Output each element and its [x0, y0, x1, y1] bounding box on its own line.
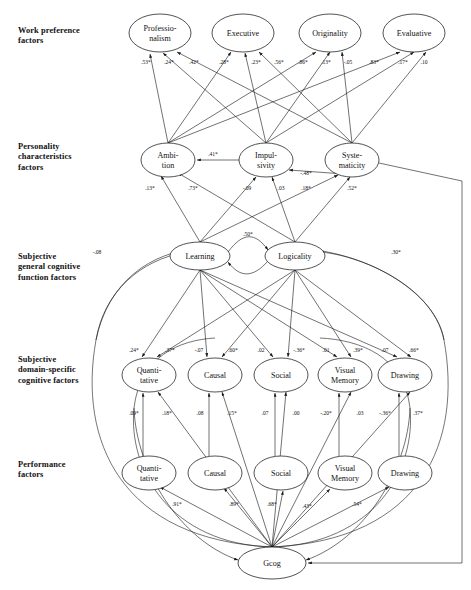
coefficient-lrn-vismem: .01 — [323, 347, 330, 353]
coefficient-gcog-drawingperf: .54* — [352, 501, 362, 507]
coefficient-v-vismem: -.20* — [320, 410, 332, 416]
node-label-impulsivity: Impul- — [255, 151, 277, 160]
coefficient-amb-prof: .53* — [141, 59, 151, 65]
coefficient-gcog-socialperf: .68* — [267, 501, 277, 507]
row-label-performance: Performancefactors — [18, 460, 66, 481]
coefficient-log-sys: .52* — [347, 185, 357, 191]
node-originality[interactable]: Originality — [299, 14, 361, 52]
coefficient-imp-orig: .13* — [321, 59, 331, 65]
coefficient-lrn-imp: -.09 — [243, 185, 252, 191]
node-label-drawing-subj: Drawing — [391, 371, 419, 380]
coefficient-lrn-drawing: .07 — [382, 347, 389, 353]
node-learning[interactable]: Learning — [170, 242, 230, 270]
coefficient-amb-eval: .83* — [369, 59, 379, 65]
coefficient-g-vismem: .03 — [357, 410, 364, 416]
node-label-visualmemory-perf: Memory — [331, 474, 360, 483]
coefficient-gcog-lrn: -.08 — [93, 249, 102, 255]
node-label-learning: Learning — [185, 252, 214, 261]
node-label-evaluative: Evaluative — [397, 29, 432, 38]
path-diagram-canvas: Professio-nalismExecutiveOriginalityEval… — [0, 0, 471, 590]
node-logicality[interactable]: Logicality — [265, 242, 325, 270]
coefficient-log-causal: .60* — [228, 347, 238, 353]
coefficient-log-social: -.36* — [293, 347, 305, 353]
coefficient-imp-amb: .41* — [208, 151, 218, 157]
node-label-causal-perf: Causal — [204, 469, 227, 478]
coefficient-g-quant: .18* — [162, 410, 172, 416]
node-causal-perf[interactable]: Causal — [188, 456, 242, 490]
row-label-line: characteristics — [18, 152, 72, 162]
node-drawing-perf[interactable]: Drawing — [378, 456, 432, 490]
row-label-line: factors — [18, 163, 72, 173]
node-quantitative-perf[interactable]: Quanti-tative — [122, 456, 176, 490]
node-label-systematicity: maticity — [339, 161, 366, 170]
node-label-impulsivity: sivity — [257, 161, 276, 170]
node-label-gcog: Gcog — [263, 559, 281, 568]
node-visualmemory-perf[interactable]: VisualMemory — [318, 456, 372, 490]
coefficient-g-drawing: .37* — [413, 410, 423, 416]
node-label-executive: Executive — [227, 29, 260, 38]
node-label-visualmemory-subj: Visual — [335, 366, 356, 375]
node-label-originality: Originality — [312, 29, 348, 38]
row-label-line: domain-specific — [18, 365, 79, 375]
coefficient-lrn-amb: .13* — [145, 185, 155, 191]
coefficient-gcog-causalperf: .89* — [229, 501, 239, 507]
node-label-professionalism: nalism — [149, 34, 171, 43]
row-label-domain-specific: Subjectivedomain-specificcognitive facto… — [18, 355, 79, 386]
coefficient-gcog-log: .30* — [391, 249, 401, 255]
node-label-ambition: Ambi- — [157, 151, 178, 160]
coefficient-log-amb: .73* — [188, 185, 198, 191]
node-causal-subj[interactable]: Causal — [188, 358, 242, 392]
row-label-line: Subjective — [18, 252, 80, 262]
node-label-quantitative-perf: tative — [140, 474, 158, 483]
coefficient-sys-prof: .42* — [189, 59, 199, 65]
node-label-quantitative-subj: Quanti- — [137, 366, 162, 375]
coefficient-lrn-social: .02 — [258, 347, 265, 353]
node-social-perf[interactable]: Social — [254, 456, 308, 490]
coefficient-lrn-causal: -.07 — [195, 347, 204, 353]
node-drawing-subj[interactable]: Drawing — [378, 358, 432, 392]
node-label-logicality: Logicality — [278, 252, 312, 261]
node-gcog[interactable]: Gcog — [238, 547, 306, 579]
node-label-visualmemory-subj: Memory — [331, 376, 360, 385]
node-label-visualmemory-perf: Visual — [335, 464, 356, 473]
node-impulsivity[interactable]: Impul-sivity — [239, 143, 293, 177]
row-label-line: Subjective — [18, 355, 79, 365]
node-professionalism[interactable]: Professio-nalism — [129, 14, 191, 52]
coefficient-q-quant: .09* — [129, 410, 139, 416]
coefficient-lrn-log: .50* — [243, 231, 253, 237]
coefficient-amb-orig: .86* — [298, 59, 308, 65]
node-label-quantitative-subj: tative — [140, 376, 158, 385]
node-executive[interactable]: Executive — [212, 14, 274, 52]
coefficient-log-vismem: .39* — [353, 347, 363, 353]
node-label-social-perf: Social — [271, 469, 292, 478]
coefficient-s-social: .07 — [262, 410, 269, 416]
coefficient-amb-exec: .28* — [219, 59, 229, 65]
row-label-line: function factors — [18, 273, 80, 283]
coefficient-c-causal: .08 — [197, 410, 204, 416]
coefficient-gcog-vismemperf: .43* — [302, 503, 312, 509]
coefficient-sys-imp: -.48* — [300, 170, 312, 176]
coefficient-gcog-quantperf: .91* — [172, 501, 182, 507]
coefficient-sys-exec: .56* — [274, 59, 284, 65]
coefficient-sys-orig: -.05 — [344, 59, 353, 65]
node-systematicity[interactable]: Syste-maticity — [325, 143, 379, 177]
node-label-quantitative-perf: Quanti- — [137, 464, 162, 473]
row-label-line: Personality — [18, 142, 72, 152]
node-social-subj[interactable]: Social — [254, 358, 308, 392]
node-label-ambition: tion — [162, 161, 175, 170]
coefficient-log-drawing: .66* — [409, 347, 419, 353]
node-evaluative[interactable]: Evaluative — [383, 14, 445, 52]
node-visualmemory-subj[interactable]: VisualMemory — [318, 358, 372, 392]
coefficient-lrn-sys: .18* — [301, 185, 311, 191]
coefficient-imp-prof: .24* — [164, 59, 174, 65]
row-label-line: general cognitive — [18, 262, 80, 272]
coefficient-imp-eval: .17* — [398, 59, 408, 65]
row-label-line: Work preference — [18, 26, 80, 36]
node-quantitative-subj[interactable]: Quanti-tative — [122, 358, 176, 392]
row-label-general-cognitive: Subjectivegeneral cognitivefunction fact… — [18, 252, 80, 283]
node-ambition[interactable]: Ambi-tion — [141, 143, 195, 177]
coefficient-log-imp: .03 — [278, 185, 285, 191]
row-label-line: Performance — [18, 460, 66, 470]
row-label-personality: Personalitycharacteristicsfactors — [18, 142, 72, 173]
coefficient-d-drawing: -.36* — [379, 410, 391, 416]
